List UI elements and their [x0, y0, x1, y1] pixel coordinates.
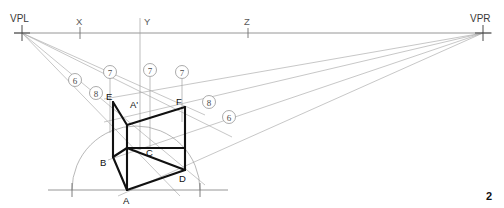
ray-vpl-to-A: [22, 33, 180, 196]
vertex-label-A1: A': [130, 99, 138, 110]
cube-edge-B-A: [113, 157, 127, 190]
horizon-label-group: VPL X Y Z VPR: [10, 13, 491, 27]
vertex-label-F: F: [176, 96, 182, 107]
figure-number-group: 2: [486, 190, 492, 202]
cube-edge-C-D: [127, 148, 185, 170]
callout-6-left[interactable]: 6: [69, 74, 82, 87]
callout-6-left-label: 6: [73, 76, 78, 86]
vpr-label: VPR: [470, 13, 491, 24]
axis-label-y: Y: [144, 16, 151, 27]
vertex-label-D: D: [179, 173, 186, 184]
callout-6-right-label: 6: [227, 113, 232, 123]
ray-vpl-to-A1: [22, 33, 232, 137]
callout-7-c-label: 7: [180, 68, 185, 78]
callout-7-a-label: 7: [108, 68, 113, 78]
callout-6-right[interactable]: 6: [223, 111, 236, 124]
callout-7-a[interactable]: 7: [104, 66, 117, 79]
callout-8-left[interactable]: 8: [90, 87, 103, 100]
axis-label-x: X: [76, 16, 83, 27]
callout-7-b-label: 7: [148, 66, 153, 76]
perspective-drawing-canvas: 6 8 7 7 7 8 6: [0, 0, 504, 208]
vertex-label-B: B: [100, 157, 106, 168]
callout-group: 6 8 7 7 7 8 6: [69, 64, 236, 124]
ray-vpr-to-A1: [104, 33, 483, 122]
vpr-cross-marker: [475, 25, 491, 41]
callout-7-b[interactable]: 7: [144, 64, 157, 77]
cube-edge-E-A1: [113, 102, 127, 125]
cube-edge-A-D: [127, 170, 185, 190]
axis-label-z: Z: [244, 16, 250, 27]
figure-number: 2: [486, 190, 492, 202]
callout-8-right[interactable]: 8: [203, 96, 216, 109]
callout-8-right-label: 8: [207, 98, 212, 108]
vertex-label-C: C: [146, 147, 153, 158]
perspective-figure: 6 8 7 7 7 8 6: [0, 0, 504, 208]
vertex-label-E: E: [106, 91, 112, 102]
ray-vpr-to-F: [104, 33, 483, 99]
vpl-label: VPL: [10, 13, 29, 24]
vertex-label-A: A: [123, 195, 130, 206]
callout-7-c[interactable]: 7: [176, 66, 189, 79]
callout-8-left-label: 8: [94, 89, 99, 99]
ray-vpr-to-A: [118, 33, 483, 196]
